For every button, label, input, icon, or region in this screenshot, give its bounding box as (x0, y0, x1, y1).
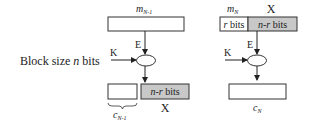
encrypt-label: E (135, 39, 141, 50)
c-n-minus-1-label: cN-1 (113, 109, 126, 121)
c-n-label: cN (253, 102, 262, 114)
c-n-minus-1-box (108, 84, 137, 99)
left-block: mN-1 E K n-r bits X cN-1 (108, 3, 189, 121)
n-minus-r-bits-label: n-r bits (150, 86, 179, 97)
m-n-label: mN (227, 3, 239, 15)
r-bits-label: r bits (224, 19, 245, 30)
x-label-bottom: X (161, 101, 170, 115)
x-label-top: X (267, 2, 276, 16)
ciphertext-stealing-diagram: Block size n bits mN-1 E K n-r bits X cN… (0, 0, 314, 130)
key-label-right: K (224, 47, 232, 58)
key-label: K (110, 47, 118, 58)
m-n-minus-1-box (108, 17, 184, 31)
c-n-box (229, 84, 286, 99)
encrypt-ellipse (137, 55, 156, 66)
right-block: mN X r bits n-r bits E K cN (220, 2, 297, 114)
n-minus-r-bits-top-label: n-r bits (258, 19, 287, 30)
block-size-label: Block size n bits (20, 54, 100, 68)
encrypt-label-right: E (247, 39, 253, 50)
m-n-minus-1-label: mN-1 (136, 3, 152, 15)
encrypt-ellipse-right (248, 55, 267, 66)
